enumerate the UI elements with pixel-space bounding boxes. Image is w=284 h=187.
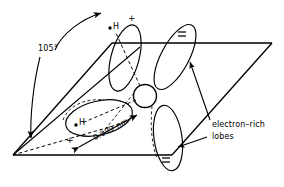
partial-charge-bottom: + [66, 136, 74, 145]
diagram-canvas [0, 0, 284, 187]
partial-charge-top: + [128, 14, 136, 23]
callout-arrow-upper [190, 62, 210, 120]
bond-o-h-top [116, 33, 140, 86]
callout-label-line1: electron–rich [212, 121, 265, 129]
electron-rich-lobe-upper-right [146, 19, 205, 96]
hydrogen-label-top: H [113, 23, 119, 31]
hydrogen-label-bottom: H [79, 119, 85, 127]
bonding-lobe-upper-left [103, 22, 148, 95]
oxygen-nucleus [134, 85, 157, 108]
bond-angle-label: 105° [38, 45, 58, 53]
water-molecule-diagram: 105° H H + + 0.099 nm electron–rich lobe… [0, 0, 284, 187]
callout-label-line2: lobes [212, 133, 234, 141]
hydrogen-dot-bottom [74, 123, 77, 126]
angle-arc-upper [55, 13, 101, 50]
callout-leaders [178, 62, 210, 147]
hydrogen-dot-top [108, 26, 111, 29]
